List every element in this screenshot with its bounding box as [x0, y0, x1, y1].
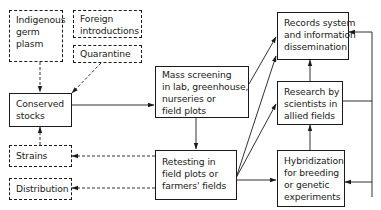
node-text: or genetic: [284, 179, 340, 191]
node-text: stocks: [16, 110, 67, 122]
node-retesting: Retesting in field plots or farmers' fie…: [155, 150, 237, 200]
node-text: Conserved: [16, 98, 67, 110]
node-text: Quarantine: [80, 48, 137, 60]
node-text: and information: [284, 29, 344, 41]
node-text: Strains: [16, 150, 67, 162]
node-conserved-stocks: Conserved stocks: [9, 93, 72, 127]
node-text: Records system: [284, 17, 344, 29]
node-text: in lab, greenhouse,: [162, 81, 244, 93]
node-distribution: Distribution: [9, 178, 72, 200]
edge-mass-records: [249, 37, 276, 84]
node-text: scientists in: [284, 98, 338, 110]
node-text: field plots or: [162, 168, 232, 180]
node-text: allied fields: [284, 110, 338, 122]
node-text: germ: [16, 26, 58, 38]
node-text: farmers' fields: [162, 180, 232, 192]
node-text: for breeding: [284, 167, 340, 179]
node-text: experiments: [284, 191, 340, 203]
node-text: Foreign: [80, 13, 137, 25]
node-records-system: Records system and information dissemina…: [277, 12, 349, 60]
node-text: nurseries or: [162, 93, 244, 105]
node-text: Retesting in: [162, 156, 232, 168]
node-mass-screening: Mass screening in lab, greenhouse, nurse…: [155, 66, 249, 118]
node-text: Research by: [284, 86, 338, 98]
node-text: Indigenous: [16, 14, 58, 26]
edge-loop-records: [349, 32, 372, 197]
node-text: plasm: [16, 38, 58, 50]
node-hybridization: Hybridization for breeding or genetic ex…: [277, 150, 345, 207]
node-foreign-introductions: Foreign introductions: [73, 10, 142, 38]
node-quarantine: Quarantine: [73, 45, 142, 63]
node-text: Hybridization: [284, 155, 340, 167]
node-research: Research by scientists in allied fields: [277, 81, 343, 125]
node-text: field plots: [162, 105, 244, 117]
node-text: Mass screening: [162, 69, 244, 81]
node-text: Distribution: [16, 183, 67, 195]
node-strains: Strains: [9, 145, 72, 167]
edge-quarantine-conserved: [72, 63, 101, 93]
node-text: introductions: [80, 25, 137, 37]
node-indigenous-germ-plasm: Indigenous germ plasm: [9, 10, 63, 62]
node-text: dissemination: [284, 41, 344, 53]
